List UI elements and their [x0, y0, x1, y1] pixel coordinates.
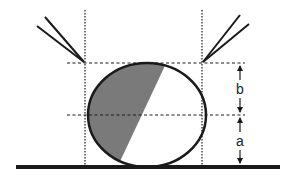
diagram-canvas: b a	[0, 0, 294, 183]
dimension-a-label: a	[236, 133, 244, 149]
left-pincer-icon	[37, 17, 84, 62]
dimension-b-label: b	[236, 81, 244, 97]
ellipse-diagram: b a	[0, 0, 294, 183]
shaded-region	[80, 55, 170, 170]
right-pincer-icon	[203, 15, 249, 62]
